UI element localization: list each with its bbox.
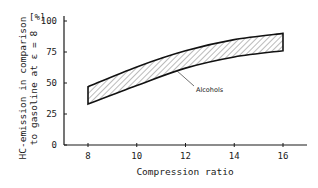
y-tick-label: 75 xyxy=(46,47,57,57)
y-axis-title-line2: to gasoline at ε = 8 xyxy=(28,31,39,146)
y-tick-label: 50 xyxy=(46,78,57,88)
alcohols-label: Alcohols xyxy=(196,86,224,94)
x-tick-label: 8 xyxy=(85,151,90,161)
x-axis-title: Compression ratio xyxy=(136,166,234,177)
x-tick-label: 12 xyxy=(180,151,191,161)
hc-emission-chart: 0255075100 810121416 Alcohols [%] HC-emi… xyxy=(0,0,318,188)
x-tick-label: 10 xyxy=(131,151,142,161)
y-axis-title-line1: HC-emission in comparison xyxy=(17,17,28,160)
alcohols-leader-line xyxy=(176,70,194,86)
x-tick-label: 16 xyxy=(278,151,289,161)
y-ticks: 0255075100 xyxy=(41,16,67,150)
x-ticks: 810121416 xyxy=(85,143,288,161)
y-tick-label: 0 xyxy=(52,140,57,150)
x-tick-label: 14 xyxy=(229,151,240,161)
y-unit-label: [%] xyxy=(29,12,45,22)
alcohols-band xyxy=(88,33,283,104)
y-tick-label: 25 xyxy=(46,109,57,119)
